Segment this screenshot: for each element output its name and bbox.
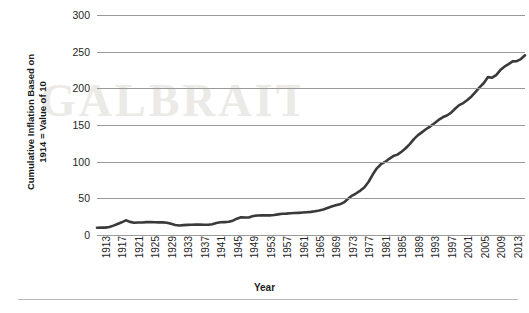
x-tick-label-1921: 1921 <box>134 236 145 258</box>
x-tick-label-2009: 2009 <box>496 236 507 258</box>
y-tick-label-0: 0 <box>84 229 90 241</box>
x-tick-label-1941: 1941 <box>216 236 227 258</box>
plot-area <box>97 15 525 235</box>
x-tick-label-1945: 1945 <box>233 236 244 258</box>
x-tick-label-2001: 2001 <box>463 236 474 258</box>
gridline-200 <box>97 88 525 89</box>
x-tick-label-1997: 1997 <box>447 236 458 258</box>
x-tick-label-1949: 1949 <box>249 236 260 258</box>
y-tick-label-100: 100 <box>72 156 90 168</box>
y-tick-label-50: 50 <box>78 192 90 204</box>
x-tick-label-1917: 1917 <box>117 236 128 258</box>
y-tick-label-150: 150 <box>72 119 90 131</box>
y-axis-tick-labels: 050100150200250300 <box>36 0 90 240</box>
x-tick-label-1993: 1993 <box>430 236 441 258</box>
inflation-line-chart: GALBRAITH Cumulative Inflation Based on … <box>0 0 529 313</box>
x-tick-label-1933: 1933 <box>183 236 194 258</box>
gridline-50 <box>97 198 525 199</box>
x-tick-label-1973: 1973 <box>348 236 359 258</box>
y-tick-label-250: 250 <box>72 46 90 58</box>
y-tick-label-300: 300 <box>72 9 90 21</box>
x-axis-title: Year <box>0 282 529 293</box>
x-tick-label-1937: 1937 <box>200 236 211 258</box>
x-tick-label-1953: 1953 <box>266 236 277 258</box>
x-tick-label-1981: 1981 <box>381 236 392 258</box>
x-tick-label-1957: 1957 <box>282 236 293 258</box>
x-tick-label-1913: 1913 <box>101 236 112 258</box>
y-tick-label-200: 200 <box>72 82 90 94</box>
x-tick-label-1929: 1929 <box>167 236 178 258</box>
gridline-100 <box>97 162 525 163</box>
page-divider-rule <box>18 299 518 300</box>
x-tick-label-1961: 1961 <box>299 236 310 258</box>
x-tick-label-1989: 1989 <box>414 236 425 258</box>
x-tick-label-1969: 1969 <box>331 236 342 258</box>
series-line-0 <box>97 55 525 227</box>
gridline-250 <box>97 52 525 53</box>
gridline-150 <box>97 125 525 126</box>
x-axis-tick-labels: 1913191719211925192919331937194119451949… <box>97 236 525 280</box>
x-tick-label-1985: 1985 <box>397 236 408 258</box>
x-tick-label-1977: 1977 <box>364 236 375 258</box>
x-tick-label-1965: 1965 <box>315 236 326 258</box>
x-tick-label-2005: 2005 <box>480 236 491 258</box>
gridline-300 <box>97 15 525 16</box>
x-tick-label-1925: 1925 <box>150 236 161 258</box>
x-tick-label-2013: 2013 <box>513 236 524 258</box>
